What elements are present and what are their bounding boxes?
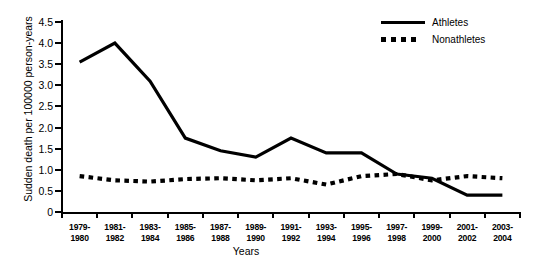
x-axis-tick — [131, 212, 133, 218]
x-axis-tick-label-line1: 1993- — [316, 222, 337, 233]
y-axis-tick — [55, 105, 62, 107]
x-axis-tick — [308, 212, 310, 218]
x-axis-tick-label-line2: 1996 — [351, 233, 372, 244]
x-axis-tick-label: 1997-1998 — [386, 222, 407, 243]
y-axis-tick-label: 2.5 — [38, 100, 53, 112]
y-axis-tick-label: 3.5 — [38, 58, 53, 70]
x-axis-tick-label-line2: 2004 — [492, 233, 513, 244]
x-axis-tick-label-line2: 1998 — [386, 233, 407, 244]
x-axis-tick — [413, 212, 415, 218]
chart-container: Sudden death per 100000 person-years 00.… — [0, 0, 540, 263]
legend-dot-icon — [411, 37, 416, 42]
y-axis-tick-label: 1.5 — [38, 143, 53, 155]
series-line-athletes — [80, 43, 503, 195]
plot-area: 00.51.01.52.02.53.03.54.04.5 — [62, 22, 520, 212]
chart-legend: AthletesNonathletes — [381, 14, 485, 48]
x-axis-tick — [343, 212, 345, 218]
x-axis-tick-label: 1995-1996 — [351, 222, 372, 243]
x-axis-tick-label: 2001-2002 — [457, 222, 478, 243]
legend-dot-icon — [401, 37, 406, 42]
x-axis-tick-label-line1: 1979- — [69, 222, 90, 233]
x-axis-tick-label-line1: 1981- — [104, 222, 125, 233]
x-axis-tick-label: 1993-1994 — [316, 222, 337, 243]
x-axis-tick-label-line2: 1988 — [210, 233, 231, 244]
x-axis-tick — [484, 212, 486, 218]
x-axis-tick — [378, 212, 380, 218]
x-axis-tick-label-line2: 1984 — [140, 233, 161, 244]
x-axis-tick-label: 1983-1984 — [140, 222, 161, 243]
x-axis-tick-label: 2003-2004 — [492, 222, 513, 243]
y-axis-tick — [55, 127, 62, 129]
x-axis-line — [61, 212, 521, 214]
x-axis-tick-label-line1: 1995- — [351, 222, 372, 233]
x-axis-tick-label-line2: 2000 — [421, 233, 442, 244]
x-axis-tick — [449, 212, 451, 218]
legend-swatch-solid-icon — [381, 17, 425, 29]
y-axis-tick-label: 2.0 — [38, 122, 53, 134]
y-axis-tick — [55, 190, 62, 192]
y-axis-tick — [55, 21, 62, 23]
x-axis-tick-label: 1981-1982 — [104, 222, 125, 243]
x-axis-tick-label-line1: 1983- — [140, 222, 161, 233]
x-axis-tick-label-line1: 2003- — [492, 222, 513, 233]
y-axis-tick — [55, 63, 62, 65]
y-axis-tick-label: 0 — [47, 206, 53, 218]
y-axis-tick-label: 0.5 — [38, 185, 53, 197]
x-axis-tick — [237, 212, 239, 218]
y-axis-tick-label: 1.0 — [38, 164, 53, 176]
x-axis-tick-label: 1999-2000 — [421, 222, 442, 243]
x-axis-tick-label-line1: 1985- — [175, 222, 196, 233]
legend-label: Athletes — [432, 17, 468, 28]
legend-item-athletes[interactable]: Athletes — [381, 14, 485, 31]
x-axis-tick-label: 1991-1992 — [281, 222, 302, 243]
legend-item-nonathletes[interactable]: Nonathletes — [381, 31, 485, 48]
x-axis-tick-label-line2: 1982 — [104, 233, 125, 244]
x-axis-tick — [96, 212, 98, 218]
legend-dot-icon — [391, 37, 396, 42]
x-axis-tick-label-line2: 1992 — [281, 233, 302, 244]
y-axis-tick-label: 4.0 — [38, 37, 53, 49]
x-axis-tick-label: 1985-1986 — [175, 222, 196, 243]
x-axis-tick-label: 1987-1988 — [210, 222, 231, 243]
x-axis-tick — [61, 212, 63, 218]
y-axis-tick — [55, 42, 62, 44]
y-axis-tick — [55, 169, 62, 171]
x-axis-tick-label-line2: 1980 — [69, 233, 90, 244]
x-axis-tick — [519, 212, 521, 218]
x-axis-tick-label-line1: 2001- — [457, 222, 478, 233]
x-axis-tick-label-line1: 1999- — [421, 222, 442, 233]
x-axis-tick-label-line2: 1994 — [316, 233, 337, 244]
y-axis-tick — [55, 84, 62, 86]
x-axis-tick-label-line2: 2002 — [457, 233, 478, 244]
x-axis-tick-label-line2: 1990 — [245, 233, 266, 244]
series-lines — [62, 22, 520, 212]
y-axis-tick-label: 3.0 — [38, 79, 53, 91]
x-axis-tick-label-line2: 1986 — [175, 233, 196, 244]
y-axis-tick-label: 4.5 — [38, 16, 53, 28]
x-axis-tick-label-line1: 1987- — [210, 222, 231, 233]
x-axis-tick-label: 1989-1990 — [245, 222, 266, 243]
x-axis-tick — [202, 212, 204, 218]
y-axis-tick — [55, 148, 62, 150]
x-axis-title-text: Years — [233, 245, 259, 257]
legend-swatch-dotted-icon — [381, 34, 425, 46]
legend-dot-icon — [381, 37, 386, 42]
x-axis-tick-label-line1: 1997- — [386, 222, 407, 233]
y-axis-title: Sudden death per 100000 person-years — [22, 9, 34, 209]
x-axis-tick — [167, 212, 169, 218]
x-axis-title: Years — [0, 245, 540, 257]
x-axis-tick-label-line1: 1989- — [245, 222, 266, 233]
x-axis-tick — [272, 212, 274, 218]
legend-label: Nonathletes — [432, 34, 485, 45]
x-axis-tick-label: 1979-1980 — [69, 222, 90, 243]
x-axis-tick-label-line1: 1991- — [281, 222, 302, 233]
